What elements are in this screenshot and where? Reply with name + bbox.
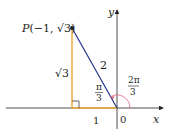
outer-angle-den: 3 [130,87,136,97]
x-axis-label: x [153,113,160,126]
inner-angle-num: π [96,82,102,92]
origin-label: 0 [120,114,126,125]
base-label: 1 [93,115,99,126]
outer-angle-num: 2π [128,75,140,85]
y-axis-label: y [107,6,115,19]
hypotenuse-label: 2 [100,59,107,72]
inner-angle-den: 3 [96,93,102,103]
hypotenuse [72,28,117,108]
right-angle-marker [72,101,79,108]
unit-triangle-diagram: P(−1, √3) √3 2 π 3 2π 3 1 0 x y [0,0,176,136]
point-p-label: P(−1, √3) [21,22,75,35]
vertical-side-label: √3 [55,67,69,80]
diagram-canvas: P(−1, √3) √3 2 π 3 2π 3 1 0 x y [0,0,176,136]
